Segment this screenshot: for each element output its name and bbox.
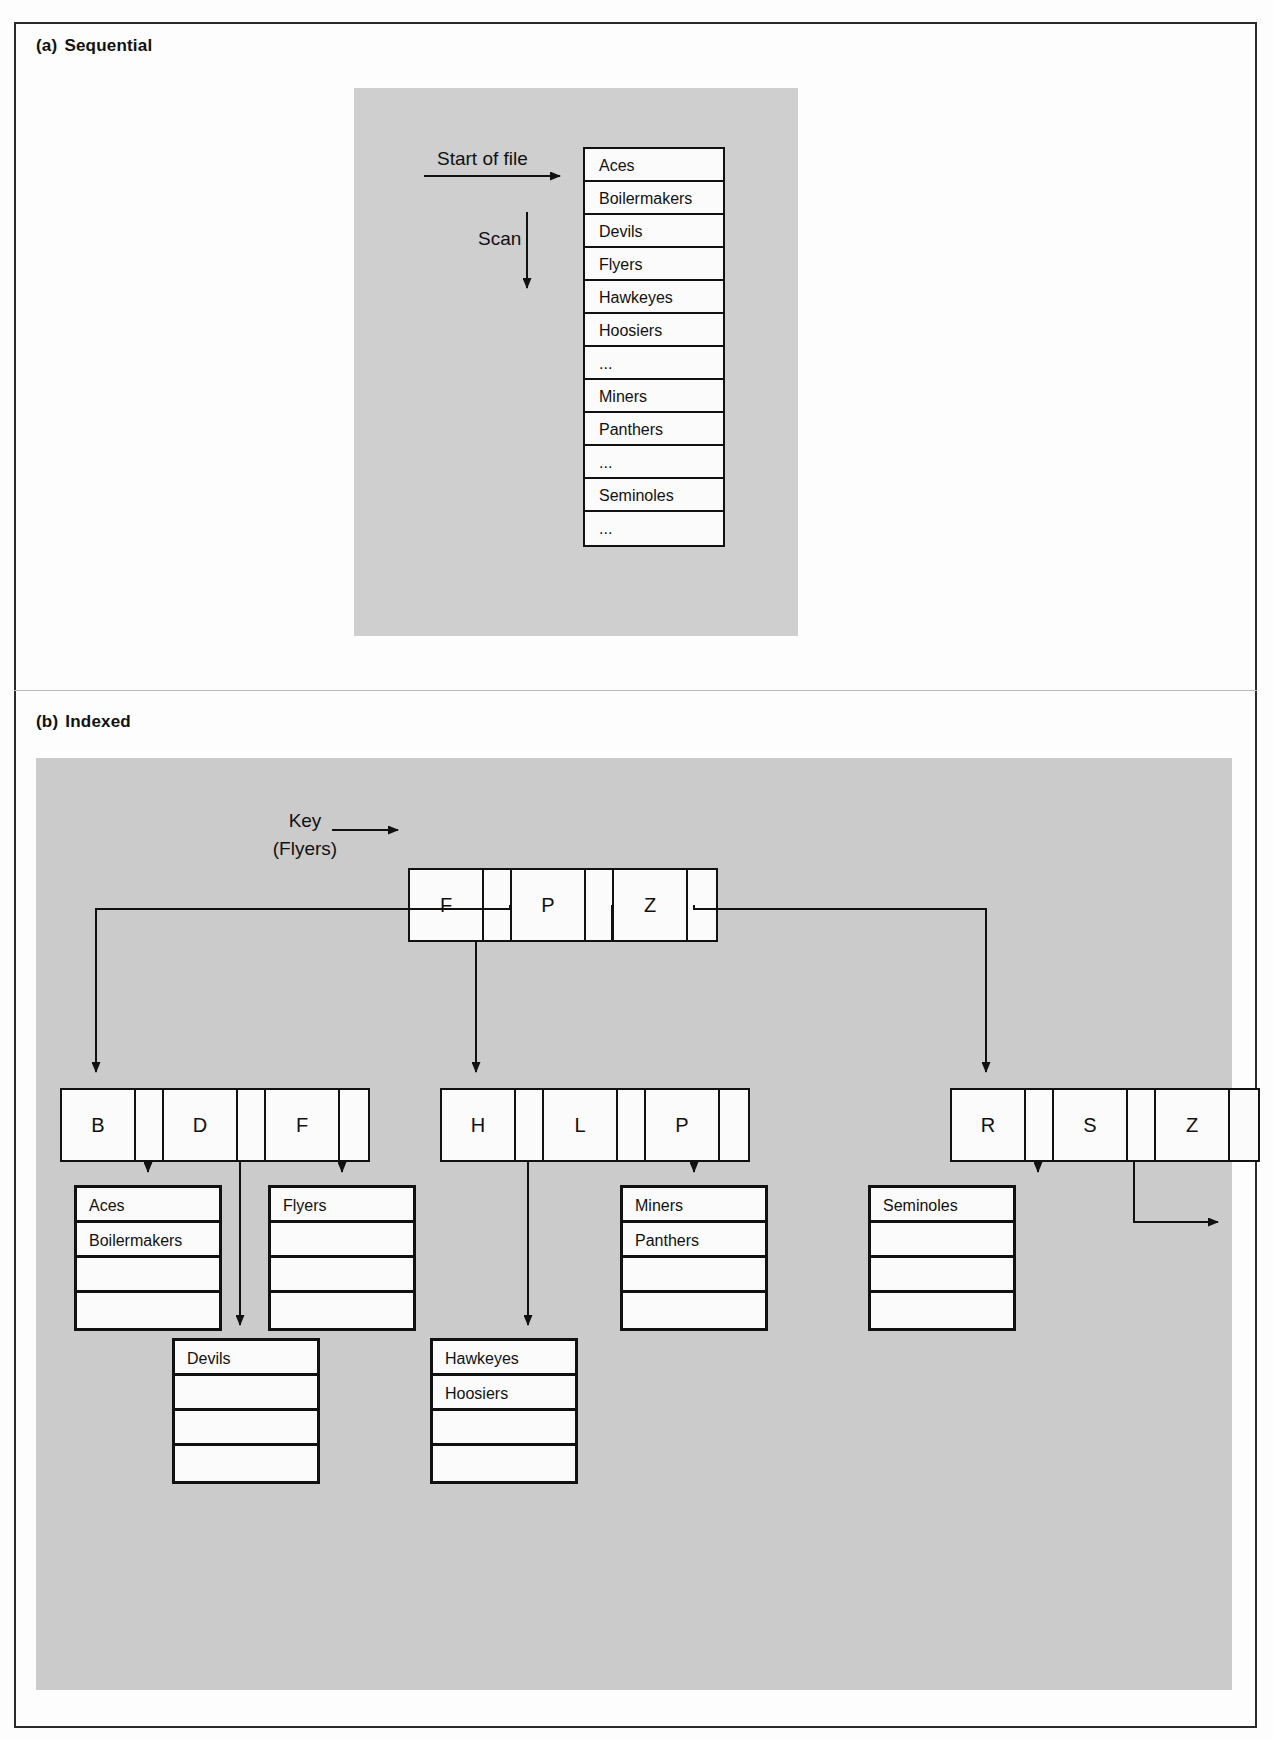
key-label-line2: (Flyers): [251, 838, 359, 860]
leaf-row: [433, 1411, 575, 1446]
index-key-cell: Z: [1156, 1090, 1230, 1160]
leaf-row: [623, 1258, 765, 1293]
bleed-through-text: [120, 698, 124, 715]
index-key-cell: Z: [614, 870, 688, 940]
leaf-block: Miners Panthers: [620, 1185, 768, 1331]
leaf-row: [623, 1293, 765, 1328]
file-row: ...: [585, 347, 723, 380]
key-label-line1: Key: [261, 810, 349, 832]
file-row: ...: [585, 446, 723, 479]
index-pointer-cell: [340, 1090, 368, 1160]
leaf-row: Panthers: [623, 1223, 765, 1258]
leaf-row: [271, 1293, 413, 1328]
index-key-cell: H: [442, 1090, 516, 1160]
part-a-title: Sequential: [64, 36, 152, 55]
index-pointer-cell: [586, 870, 614, 940]
file-row: Panthers: [585, 413, 723, 446]
panel-divider: [14, 690, 1257, 691]
index-pointer-cell: [688, 870, 716, 940]
index-node-root: F P Z: [408, 868, 718, 942]
index-key-cell: P: [646, 1090, 720, 1160]
file-row: Hoosiers: [585, 314, 723, 347]
index-pointer-cell: [136, 1090, 164, 1160]
index-key-cell: R: [952, 1090, 1026, 1160]
index-pointer-cell: [1128, 1090, 1156, 1160]
index-pointer-cell: [238, 1090, 266, 1160]
index-pointer-cell: [618, 1090, 646, 1160]
file-row: Flyers: [585, 248, 723, 281]
index-key-cell: D: [164, 1090, 238, 1160]
leaf-row: Hoosiers: [433, 1376, 575, 1411]
leaf-row: [175, 1376, 317, 1411]
leaf-block: Aces Boilermakers: [74, 1185, 222, 1331]
leaf-block: Flyers: [268, 1185, 416, 1331]
part-b-tag: (b): [36, 712, 58, 731]
leaf-block: Hawkeyes Hoosiers: [430, 1338, 578, 1484]
leaf-row: [77, 1293, 219, 1328]
part-a-label: (a)Sequential: [36, 36, 152, 56]
index-node-level2: B D F: [60, 1088, 370, 1162]
index-key-cell: F: [266, 1090, 340, 1160]
leaf-row: Devils: [175, 1341, 317, 1376]
leaf-row: [433, 1446, 575, 1481]
start-of-file-label: Start of file: [437, 148, 528, 170]
leaf-row: [77, 1258, 219, 1293]
figure-page: (a)Sequential Start of file Scan Aces Bo…: [0, 0, 1273, 1740]
leaf-row: Hawkeyes: [433, 1341, 575, 1376]
leaf-row: Flyers: [271, 1188, 413, 1223]
part-a-tag: (a): [36, 36, 57, 55]
file-row: Devils: [585, 215, 723, 248]
index-pointer-cell: [1026, 1090, 1054, 1160]
index-pointer-cell: [516, 1090, 544, 1160]
index-pointer-cell: [720, 1090, 748, 1160]
sequential-file-table: Aces Boilermakers Devils Flyers Hawkeyes…: [583, 147, 725, 547]
part-b-label: (b)Indexed: [36, 712, 131, 732]
leaf-row: Boilermakers: [77, 1223, 219, 1258]
leaf-row: [271, 1223, 413, 1258]
index-pointer-cell: [1230, 1090, 1258, 1160]
leaf-row: [871, 1258, 1013, 1293]
scan-label: Scan: [478, 228, 521, 250]
leaf-row: Aces: [77, 1188, 219, 1223]
leaf-row: [271, 1258, 413, 1293]
file-row: Seminoles: [585, 479, 723, 512]
leaf-row: [175, 1411, 317, 1446]
index-pointer-cell: [484, 870, 512, 940]
file-row: Aces: [585, 149, 723, 182]
leaf-row: [175, 1446, 317, 1481]
leaf-row: [871, 1293, 1013, 1328]
sequential-panel: [354, 88, 798, 636]
leaf-block: Seminoles: [868, 1185, 1016, 1331]
file-row: ...: [585, 512, 723, 545]
leaf-row: Seminoles: [871, 1188, 1013, 1223]
index-key-cell: S: [1054, 1090, 1128, 1160]
leaf-row: [871, 1223, 1013, 1258]
index-node-level2: R S Z: [950, 1088, 1260, 1162]
index-node-level2: H L P: [440, 1088, 750, 1162]
leaf-block: Devils: [172, 1338, 320, 1484]
index-key-cell: B: [62, 1090, 136, 1160]
file-row: Boilermakers: [585, 182, 723, 215]
index-key-cell: P: [512, 870, 586, 940]
index-key-cell: L: [544, 1090, 618, 1160]
file-row: Miners: [585, 380, 723, 413]
index-key-cell: F: [410, 870, 484, 940]
leaf-row: Miners: [623, 1188, 765, 1223]
file-row: Hawkeyes: [585, 281, 723, 314]
